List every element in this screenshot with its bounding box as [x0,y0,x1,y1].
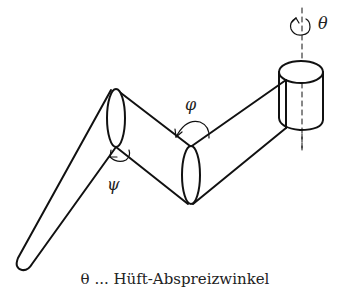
shank-link [116,90,190,204]
foot-link [17,90,116,270]
theta-rotation-arrow [291,18,310,35]
ankle-joint [107,89,125,147]
phi-label: φ [185,95,196,114]
theta-label: θ [318,14,328,33]
figure-caption: θ ... Hüft-Abspreizwinkel [0,270,350,288]
thigh-link [189,80,286,204]
psi-label: ψ [107,175,120,194]
hip-cylinder [279,61,323,150]
knee-joint [182,146,200,204]
phi-angle-arc [175,121,209,138]
